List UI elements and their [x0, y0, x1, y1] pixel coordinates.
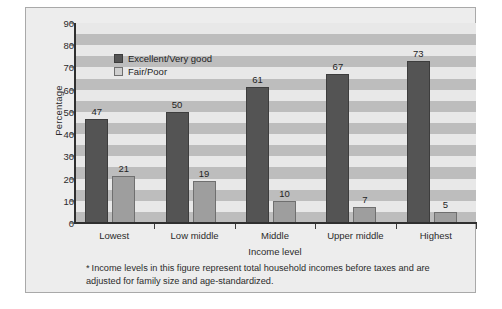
- y-axis-tick-label: 50: [34, 106, 74, 117]
- y-axis-tick-mark: [70, 178, 74, 179]
- x-axis-category-label: Middle: [261, 230, 289, 241]
- legend-item: Fair/Poor: [114, 65, 212, 77]
- footnote-text: Income levels in this figure represent t…: [86, 263, 430, 286]
- x-axis-category-label: Upper middle: [327, 230, 384, 241]
- y-axis-tick-mark: [70, 134, 74, 135]
- legend-label: Fair/Poor: [128, 66, 167, 77]
- y-axis-tick-label: 20: [34, 173, 74, 184]
- y-axis-tick-labels: 0102030405060708090: [34, 8, 74, 294]
- y-axis-tick-label: 70: [34, 62, 74, 73]
- y-axis-tick-mark: [70, 23, 74, 24]
- bar-highest-excellent-very-good: [407, 61, 430, 223]
- bar-middle-fair-poor: [273, 201, 296, 223]
- x-axis-category-label: Lowest: [99, 230, 129, 241]
- y-axis-tick-label: 30: [34, 151, 74, 162]
- y-axis-tick-mark: [70, 111, 74, 112]
- y-axis-tick-label: 90: [34, 18, 74, 29]
- y-axis-tick-mark: [70, 223, 74, 224]
- chart-plot-region: Percentage 0102030405060708090 472150196…: [26, 8, 477, 294]
- x-axis-tick-mark: [476, 224, 477, 229]
- bar-upper-middle-excellent-very-good: [326, 74, 349, 223]
- bar-value-label: 61: [252, 74, 263, 85]
- x-axis-tick-mark: [315, 224, 316, 229]
- bar-low-middle-excellent-very-good: [166, 112, 189, 223]
- bar-value-label: 73: [413, 48, 424, 59]
- x-axis-line: [74, 222, 477, 224]
- x-axis-category-label: Low middle: [171, 230, 219, 241]
- footnote-marker: *: [86, 263, 90, 273]
- bar-value-label: 67: [333, 61, 344, 72]
- bar-value-label: 21: [118, 163, 129, 174]
- bar-low-middle-fair-poor: [193, 181, 216, 223]
- chart-legend: Excellent/Very goodFair/Poor: [114, 52, 212, 78]
- bar-lowest-fair-poor: [112, 176, 135, 223]
- x-axis-category-label: Highest: [420, 230, 452, 241]
- y-axis-line: [74, 23, 76, 224]
- bar-value-label: 7: [362, 194, 367, 205]
- figure-frame: Percentage 0102030405060708090 472150196…: [25, 7, 476, 293]
- y-axis-tick-label: 10: [34, 195, 74, 206]
- y-axis-tick-mark: [70, 156, 74, 157]
- footnote: *Income levels in this figure represent …: [86, 262, 456, 287]
- x-axis-title: Income level: [74, 246, 476, 257]
- y-axis-tick-label: 0: [34, 218, 74, 229]
- legend-label: Excellent/Very good: [128, 53, 212, 64]
- y-axis-tick-mark: [70, 200, 74, 201]
- plot-band: [74, 23, 476, 34]
- legend-swatch-icon: [114, 67, 123, 76]
- bar-value-label: 19: [199, 168, 210, 179]
- bar-middle-excellent-very-good: [246, 87, 269, 223]
- y-axis-tick-label: 40: [34, 129, 74, 140]
- legend-item: Excellent/Very good: [114, 52, 212, 64]
- bar-value-label: 5: [443, 199, 448, 210]
- x-axis-tick-mark: [235, 224, 236, 229]
- y-axis-tick-mark: [70, 45, 74, 46]
- y-axis-tick-mark: [70, 67, 74, 68]
- bar-upper-middle-fair-poor: [353, 207, 376, 223]
- y-axis-tick-label: 60: [34, 84, 74, 95]
- x-axis-tick-mark: [396, 224, 397, 229]
- x-axis-tick-mark: [154, 224, 155, 229]
- bar-value-label: 50: [172, 99, 183, 110]
- bar-value-label: 10: [279, 188, 290, 199]
- bar-lowest-excellent-very-good: [85, 119, 108, 223]
- y-axis-tick-label: 80: [34, 40, 74, 51]
- bar-value-label: 47: [91, 106, 102, 117]
- y-axis-tick-mark: [70, 89, 74, 90]
- legend-swatch-icon: [114, 54, 123, 63]
- plot-band: [74, 34, 476, 45]
